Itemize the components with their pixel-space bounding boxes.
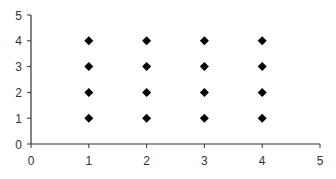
y-tick-label: 0	[15, 138, 22, 152]
diamond-marker	[142, 36, 151, 45]
diamond-marker	[84, 62, 93, 71]
x-axis-ticks: 012345	[28, 144, 324, 168]
y-tick-label: 4	[15, 34, 22, 48]
diamond-marker	[258, 62, 267, 71]
y-tick-label: 5	[15, 9, 22, 23]
diamond-marker	[84, 88, 93, 97]
diamond-marker	[200, 36, 209, 45]
diamond-marker	[200, 88, 209, 97]
y-tick-label: 3	[15, 60, 22, 74]
x-tick-label: 0	[28, 154, 35, 168]
x-tick-label: 2	[143, 154, 150, 168]
diamond-marker	[200, 62, 209, 71]
y-tick-label: 2	[15, 86, 22, 100]
diamond-marker	[258, 36, 267, 45]
axes	[31, 15, 320, 144]
diamond-marker	[258, 114, 267, 123]
diamond-marker	[142, 114, 151, 123]
x-tick-label: 3	[201, 154, 208, 168]
data-points	[84, 36, 266, 122]
x-tick-label: 4	[259, 154, 266, 168]
y-tick-label: 1	[15, 112, 22, 126]
diamond-marker	[142, 62, 151, 71]
diamond-marker	[84, 114, 93, 123]
diamond-marker	[200, 114, 209, 123]
diamond-marker	[142, 88, 151, 97]
x-tick-label: 5	[317, 154, 324, 168]
diamond-marker	[258, 88, 267, 97]
scatter-chart: 012345 012345	[0, 0, 336, 179]
diamond-marker	[84, 36, 93, 45]
x-tick-label: 1	[85, 154, 92, 168]
y-axis-ticks: 012345	[15, 9, 31, 152]
